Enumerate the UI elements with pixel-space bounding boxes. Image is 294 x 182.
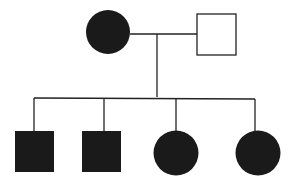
child-4-affected-female xyxy=(236,131,281,176)
father-unaffected-male xyxy=(197,14,236,55)
child-1-affected-male xyxy=(15,131,54,172)
child-3-affected-female xyxy=(154,131,199,176)
child-2-affected-male xyxy=(82,131,121,172)
sibship-line xyxy=(34,98,255,99)
pedigree-chart xyxy=(0,0,294,182)
mother-affected-female xyxy=(86,10,130,54)
